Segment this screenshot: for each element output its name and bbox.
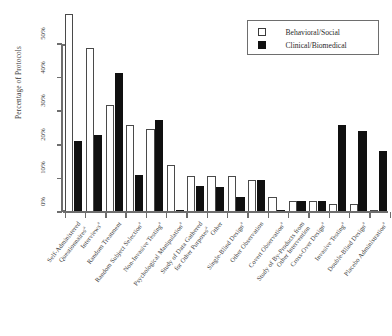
legend-label-clinical-biomedical: Clinical/Biomedical bbox=[286, 41, 347, 50]
legend-swatch-open-square-icon bbox=[258, 28, 266, 36]
legend-entry-behavioral-social: Behavioral/Social bbox=[258, 26, 340, 38]
chart-legend: Behavioral/Social Clinical/Biomedical bbox=[247, 20, 379, 55]
legend-swatch-filled-square-icon bbox=[258, 41, 266, 49]
bar-chart-figure: Percentage of Protocols 0%10%20%30%40%50… bbox=[0, 0, 392, 336]
legend-label-behavioral-social: Behavioral/Social bbox=[286, 28, 340, 37]
legend-entry-clinical-biomedical: Clinical/Biomedical bbox=[258, 39, 347, 51]
